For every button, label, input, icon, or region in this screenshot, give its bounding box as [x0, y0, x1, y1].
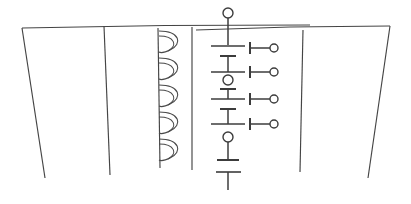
tap-2-terminal-circle-icon[interactable]: [270, 68, 278, 76]
top-terminal-circle-icon[interactable]: [223, 8, 233, 18]
tap-4-terminal-circle-icon[interactable]: [270, 120, 278, 128]
diagram-background: [0, 0, 411, 204]
schematic-diagram: [0, 0, 411, 204]
schematic-canvas: [0, 0, 411, 204]
low-node-circle-icon[interactable]: [223, 132, 233, 142]
mid-node-circle-icon[interactable]: [223, 75, 233, 85]
tap-1-terminal-circle-icon[interactable]: [270, 44, 278, 52]
tap-3-terminal-circle-icon[interactable]: [270, 95, 278, 103]
